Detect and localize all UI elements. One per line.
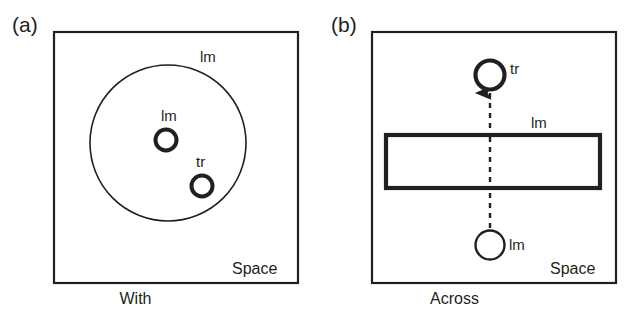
panel-a-caption: With: [0, 291, 295, 307]
target-node-b: [476, 61, 505, 90]
target-node-a: [192, 176, 213, 197]
origin-landmark-node-label-b: lm: [509, 236, 525, 253]
landmark-region-label-a: lm: [200, 48, 216, 65]
panel-b: (b) lm tr lm Space: [319, 0, 638, 321]
space-label-b: Space: [550, 260, 595, 277]
space-label-a: Space: [232, 260, 277, 277]
landmark-node-label-a: lm: [161, 107, 177, 124]
panel-a-graphics: lm lm tr Space: [0, 0, 319, 321]
landmark-barrier-b: [386, 135, 600, 188]
panel-a: (a) lm lm tr Space With: [0, 0, 319, 321]
panel-b-graphics: lm tr lm Space: [319, 0, 638, 321]
target-node-label-b: tr: [510, 60, 519, 77]
target-node-label-a: tr: [196, 153, 205, 170]
panel-b-caption: Across: [295, 291, 614, 307]
figure-container: (a) lm lm tr Space With (b): [0, 0, 638, 321]
landmark-node-a: [156, 130, 177, 151]
landmark-barrier-label-b: lm: [531, 114, 547, 131]
origin-landmark-node-b: [476, 231, 505, 260]
